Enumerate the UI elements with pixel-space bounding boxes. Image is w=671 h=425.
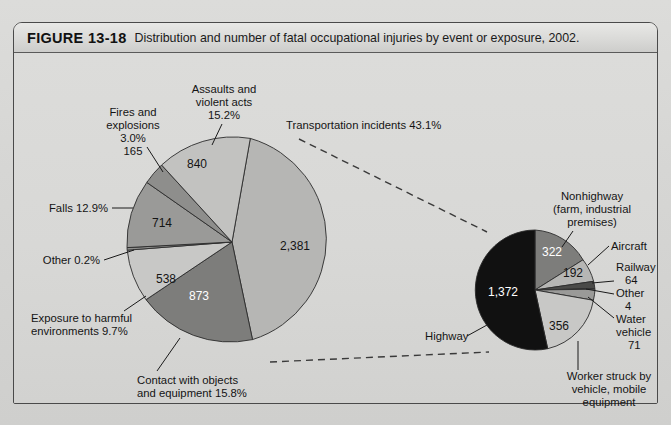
callout-contact-line1: Contact with objects: [137, 374, 238, 386]
callout-fires-line1: Fires and: [109, 106, 156, 118]
callout-nonhighway-line2: (farm, industrial: [553, 203, 631, 215]
callout-water-line1: Water: [616, 313, 646, 325]
callout-struck-line2: vehicle, mobile: [572, 383, 647, 395]
callout-other: Other 0.2%: [43, 250, 134, 266]
detail-value-nonhighway: 322: [542, 245, 562, 259]
callout-nonhighway: Nonhighway (farm, industrial premises): [553, 190, 631, 247]
callout-aircraft-leader: [588, 246, 609, 265]
figure-graphics: 840 2,381 873 538 714 Assaults and viole…: [0, 0, 671, 425]
callout-railway: Railway 64: [592, 261, 656, 286]
callout-nonhighway-line3: premises): [567, 216, 617, 228]
callout-water-line2: vehicle: [616, 326, 651, 338]
callout-contact-leader: [157, 338, 180, 371]
callout-detail-other: Other 4: [586, 287, 644, 312]
callout-fires-line3: 3.0%: [120, 132, 146, 144]
callout-highway: Highway: [425, 325, 487, 342]
callout-falls: Falls 12.9%: [49, 202, 133, 214]
callout-railway-leader: [592, 281, 614, 283]
callout-assaults-line3: 15.2%: [208, 109, 240, 121]
callout-transportation-label: Transportation incidents 43.1%: [286, 119, 441, 131]
detail-value-highway: 1,372: [488, 285, 518, 299]
callout-detail-other-line2: 4: [625, 300, 631, 312]
callout-fires: Fires and explosions 3.0% 165: [106, 106, 163, 172]
callout-exposure: Exposure to harmful environments 9.7%: [31, 296, 146, 337]
pie-value-exposure: 538: [156, 272, 176, 286]
callout-struck-line1: Worker struck by: [567, 370, 652, 382]
callout-exposure-leader: [124, 296, 146, 311]
callout-other-label: Other 0.2%: [43, 254, 100, 266]
callout-exposure-line1: Exposure to harmful: [31, 312, 132, 324]
callout-struck: Worker struck by vehicle, mobile equipme…: [567, 341, 652, 408]
figure-page: FIGURE 13-18 Distribution and number of …: [0, 0, 671, 425]
callout-railway-line2: 64: [625, 274, 638, 286]
callout-nonhighway-line1: Nonhighway: [561, 190, 624, 202]
callout-water-line3: 71: [628, 339, 641, 351]
callout-exposure-line2: environments 9.7%: [31, 325, 128, 337]
callout-contact: Contact with objects and equipment 15.8%: [137, 338, 247, 399]
pie-value-assaults: 840: [187, 157, 207, 171]
callout-assaults: Assaults and violent acts 15.2%: [192, 83, 257, 145]
detail-value-aircraft: 192: [563, 266, 583, 280]
callout-contact-line2: and equipment 15.8%: [137, 387, 247, 399]
callout-falls-label: Falls 12.9%: [49, 202, 108, 214]
detail-value-struck: 356: [549, 319, 569, 333]
callout-detail-other-line1: Other: [616, 287, 644, 299]
callout-fires-leader: [147, 147, 163, 172]
explode-connector-bottom: [270, 352, 489, 362]
pie-value-contact: 873: [189, 289, 209, 303]
callout-assaults-line2: violent acts: [196, 96, 253, 108]
callout-assaults-line1: Assaults and: [192, 83, 257, 95]
callout-highway-leader: [467, 325, 487, 336]
callout-struck-line3: equipment: [583, 396, 637, 408]
callout-fires-line2: explosions: [106, 119, 160, 131]
callout-highway-label: Highway: [425, 330, 469, 342]
callout-transportation: Transportation incidents 43.1%: [286, 119, 441, 131]
callout-water: Water vehicle 71: [588, 297, 651, 351]
pie-value-transportation: 2,381: [280, 239, 310, 253]
callout-fires-line4: 165: [124, 145, 143, 157]
callout-aircraft-label: Aircraft: [611, 240, 648, 252]
explode-connector-top: [299, 139, 487, 232]
pie-value-falls: 714: [152, 216, 172, 230]
callout-railway-line1: Railway: [616, 261, 656, 273]
